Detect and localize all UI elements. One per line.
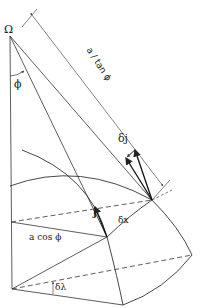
unit-j-label: j [93, 207, 97, 218]
omega-label: Ω [4, 24, 13, 35]
delta-lambda-label: δλ [55, 283, 66, 292]
delta-j-label: δj [118, 133, 128, 144]
radius-line-2 [10, 36, 152, 200]
delta-j-vector [127, 150, 135, 157]
diagram-lines [0, 0, 201, 308]
delta-x-label: δx [118, 216, 129, 225]
spherical-geometry-diagram: Ω ϕ a / tan ϕ δj j δx a cos ϕ δλ [0, 0, 201, 308]
radius-label: a cos ϕ [29, 233, 61, 242]
phi-angle-label: ϕ [14, 79, 22, 90]
polar-axis-line [10, 36, 12, 289]
